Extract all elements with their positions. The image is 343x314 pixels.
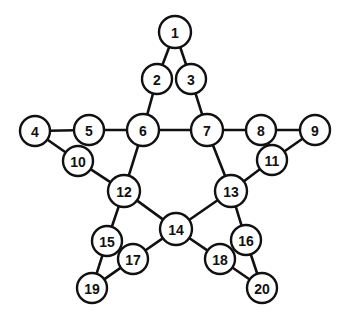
graph-node-1[interactable]: 1	[159, 16, 191, 48]
star-graph-figure: 1234567891011121314151617181920	[0, 0, 343, 314]
node-circle-7[interactable]	[191, 114, 223, 146]
graph-node-19[interactable]: 19	[77, 273, 107, 303]
node-circle-1[interactable]	[159, 16, 191, 48]
graph-node-20[interactable]: 20	[247, 273, 277, 303]
graph-edge-12-15	[112, 205, 120, 228]
node-circle-10[interactable]	[63, 146, 93, 176]
node-circle-4[interactable]	[20, 116, 50, 146]
node-circle-16[interactable]	[231, 225, 261, 255]
graph-node-5[interactable]: 5	[74, 115, 104, 145]
node-circle-19[interactable]	[77, 273, 107, 303]
graph-edge-13-16	[235, 205, 242, 226]
graph-node-7[interactable]: 7	[191, 114, 223, 146]
graph-edge-13-14	[188, 200, 218, 221]
graph-node-10[interactable]: 10	[63, 146, 93, 176]
graph-node-2[interactable]: 2	[142, 64, 172, 94]
node-circle-8[interactable]	[246, 115, 276, 145]
graph-node-18[interactable]: 18	[205, 244, 235, 274]
graph-edge-9-11	[283, 138, 303, 152]
graph-edge-10-12	[90, 169, 112, 183]
node-circle-14[interactable]	[160, 213, 192, 245]
node-circle-15[interactable]	[92, 226, 122, 256]
graph-node-12[interactable]: 12	[108, 175, 140, 207]
star-graph-canvas: 1234567891011121314151617181920	[0, 0, 343, 314]
graph-edge-4-10	[46, 139, 66, 153]
graph-node-15[interactable]: 15	[92, 226, 122, 256]
graph-node-17[interactable]: 17	[118, 244, 148, 274]
graph-node-16[interactable]: 16	[231, 225, 261, 255]
graph-node-11[interactable]: 11	[257, 145, 287, 175]
node-circle-17[interactable]	[118, 244, 148, 274]
graph-edge-14-18	[188, 237, 208, 251]
node-circle-5[interactable]	[74, 115, 104, 145]
node-circle-11[interactable]	[257, 145, 287, 175]
graph-edge-2-6	[147, 93, 153, 116]
graph-edge-6-12	[128, 144, 138, 176]
node-circle-3[interactable]	[176, 64, 206, 94]
graph-node-9[interactable]: 9	[300, 115, 330, 145]
graph-edge-1-3	[180, 46, 187, 66]
node-circle-13[interactable]	[215, 175, 247, 207]
node-circle-6[interactable]	[127, 114, 159, 146]
node-circle-2[interactable]	[142, 64, 172, 94]
graph-node-8[interactable]: 8	[246, 115, 276, 145]
graph-edge-14-17	[144, 238, 163, 251]
graph-node-14[interactable]: 14	[160, 213, 192, 245]
graph-edge-3-7	[195, 92, 202, 115]
node-circle-9[interactable]	[300, 115, 330, 145]
graph-edge-15-19	[96, 254, 102, 274]
node-circle-18[interactable]	[205, 244, 235, 274]
graph-edge-16-20	[250, 253, 257, 274]
graph-edge-7-13	[212, 144, 225, 177]
graph-edge-12-14	[136, 200, 164, 220]
node-layer: 1234567891011121314151617181920	[20, 16, 330, 303]
graph-node-13[interactable]: 13	[215, 175, 247, 207]
graph-node-3[interactable]: 3	[176, 64, 206, 94]
node-circle-12[interactable]	[108, 175, 140, 207]
graph-edge-1-2	[162, 46, 170, 66]
graph-edge-17-19	[103, 267, 121, 280]
graph-node-6[interactable]: 6	[127, 114, 159, 146]
graph-edge-11-13	[243, 168, 261, 182]
graph-node-4[interactable]: 4	[20, 116, 50, 146]
node-circle-20[interactable]	[247, 273, 277, 303]
graph-edge-18-20	[232, 267, 251, 280]
